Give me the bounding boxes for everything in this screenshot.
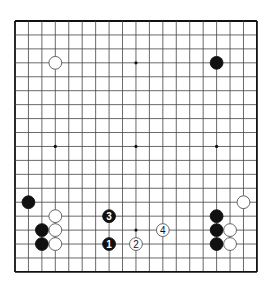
black-stone bbox=[210, 238, 223, 251]
black-stone bbox=[210, 210, 223, 223]
go-board: 3412 bbox=[0, 0, 271, 293]
star-point bbox=[134, 229, 137, 232]
white-stone bbox=[224, 238, 237, 251]
black-stone bbox=[35, 238, 48, 251]
black-stone bbox=[210, 224, 223, 237]
white-stone: 2 bbox=[130, 238, 143, 251]
black-stone bbox=[22, 196, 35, 209]
star-point bbox=[134, 61, 137, 64]
black-stone bbox=[35, 224, 48, 237]
white-stone bbox=[237, 196, 250, 209]
black-stone: 3 bbox=[103, 210, 116, 223]
white-stone bbox=[49, 224, 62, 237]
white-stone bbox=[49, 238, 62, 251]
star-point bbox=[215, 145, 218, 148]
white-stone: 4 bbox=[156, 224, 169, 237]
star-point bbox=[54, 145, 57, 148]
move-number: 3 bbox=[106, 211, 112, 222]
white-stone bbox=[49, 56, 62, 69]
move-number: 2 bbox=[133, 239, 139, 250]
white-stone bbox=[49, 210, 62, 223]
star-point bbox=[134, 145, 137, 148]
black-stone: 1 bbox=[103, 238, 116, 251]
black-stone bbox=[210, 56, 223, 69]
white-stone bbox=[224, 224, 237, 237]
move-number: 4 bbox=[160, 225, 166, 236]
move-number: 1 bbox=[106, 239, 112, 250]
